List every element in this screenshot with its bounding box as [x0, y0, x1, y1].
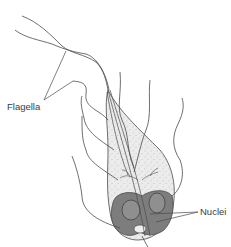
flagella-label: Flagella — [7, 101, 40, 112]
giardia-diagram — [0, 0, 231, 247]
nuclei-label: Nuclei — [200, 206, 226, 217]
nucleus-left — [122, 200, 140, 220]
nucleus-right — [149, 193, 165, 213]
